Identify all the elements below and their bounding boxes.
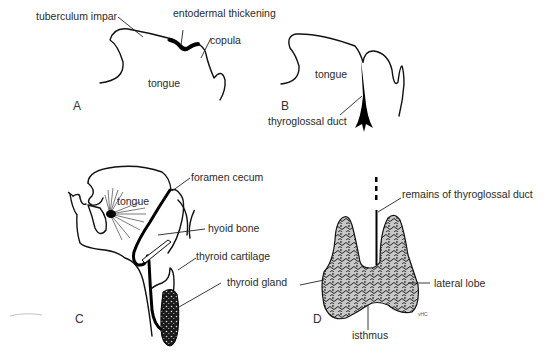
panel-a: tuberculum impar entodermal thickening c…: [36, 7, 276, 113]
panel-b: tongue thyroglossal duct B: [268, 34, 404, 132]
label-thyroid-gland: thyroid gland: [227, 276, 287, 288]
tongue-outline-left: [100, 29, 172, 83]
label-copula: copula: [210, 34, 241, 46]
label-lateral-lobe: lateral lobe: [434, 277, 486, 289]
label-thyroglossal-duct: thyroglossal duct: [268, 115, 347, 127]
panel-letter-b: B: [281, 99, 289, 113]
leader-foramen-cecum: [172, 178, 190, 191]
epiglottis-outline: [189, 210, 194, 238]
leader-hyoid-bone: [158, 229, 205, 235]
label-hyoid-bone: hyoid bone: [208, 222, 260, 234]
label-tongue-a: tongue: [148, 77, 180, 89]
label-remains-thyroglossal-duct: remains of thyroglossal duct: [402, 188, 533, 200]
leader-thyroglossal-duct: [340, 96, 362, 115]
stray-mark: [10, 314, 42, 316]
leader-thyroid-gland-d: [300, 280, 324, 285]
label-tongue-b: tongue: [315, 68, 347, 80]
hyoid-bone-shape: [142, 240, 171, 263]
label-isthmus: isthmus: [352, 329, 388, 341]
tongue-outline-b-right: [363, 51, 404, 116]
tongue-outline-right: [168, 40, 225, 100]
leader-remains-duct: [378, 198, 401, 212]
leader-thyroid-gland: [172, 283, 221, 311]
entodermal-thickening-shape: [170, 40, 198, 49]
label-tuberculum-impar: tuberculum impar: [36, 10, 118, 22]
mandible-shape: [88, 205, 106, 234]
artist-signature: vHC: [418, 311, 428, 317]
leader-tuberculum-impar: [118, 17, 143, 37]
tongue-muscle-center: [106, 210, 116, 218]
leader-thyroid-cartilage: [178, 258, 196, 270]
panel-letter-d: D: [313, 312, 322, 326]
panel-letter-c: C: [75, 312, 84, 326]
lip-outline: [88, 183, 103, 205]
panel-d: remains of thyroglossal duct lateral lob…: [300, 177, 533, 341]
thyroid-development-diagram: tuberculum impar entodermal thickening c…: [0, 0, 549, 364]
panel-letter-a: A: [73, 99, 81, 113]
upper-lip: [73, 194, 86, 204]
panel-c: foramen cecum tongue hyoid bone thyroid …: [10, 166, 287, 346]
label-thyroid-cartilage: thyroid cartilage: [196, 250, 270, 262]
leader-entodermal-thickening: [181, 30, 183, 45]
label-entodermal-thickening: entodermal thickening: [173, 7, 276, 19]
label-foramen-cecum: foramen cecum: [191, 171, 264, 183]
thyroid-gland-shape: [161, 289, 179, 346]
duct-remains-dashes: [375, 177, 378, 200]
thyroid-gland-front-view: [322, 215, 418, 318]
thyroglossal-duct-shape: [355, 60, 373, 132]
label-tongue-c: tongue: [117, 195, 149, 207]
